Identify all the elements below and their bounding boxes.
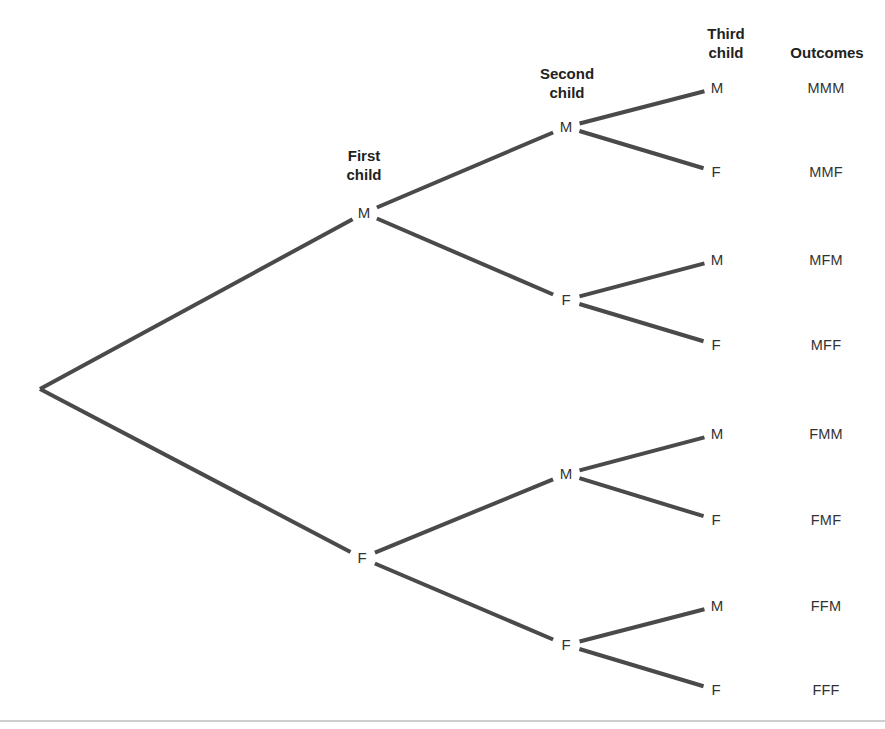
header-second-child: Second child bbox=[522, 64, 612, 102]
branch-level2-to-level3 bbox=[579, 304, 703, 341]
branch-level2-to-level3 bbox=[580, 437, 705, 470]
header-second-line2: child bbox=[522, 83, 612, 102]
branch-level1-to-level2 bbox=[375, 479, 553, 552]
branch-level1-to-level2 bbox=[377, 219, 553, 295]
outcome-label: MFM bbox=[809, 252, 843, 268]
branch-level2-to-level3 bbox=[579, 649, 703, 686]
header-first-line1: First bbox=[319, 146, 409, 165]
header-outcomes: Outcomes bbox=[777, 43, 877, 62]
node-first-child: M bbox=[356, 205, 373, 221]
branch-root-to-level1 bbox=[40, 389, 350, 552]
node-third-child: M bbox=[709, 426, 726, 442]
tree-diagram bbox=[0, 0, 885, 729]
branch-level2-to-level3 bbox=[580, 609, 705, 641]
node-second-child: M bbox=[558, 466, 575, 482]
branch-level2-to-level3 bbox=[580, 263, 705, 296]
node-second-child: F bbox=[559, 292, 572, 308]
outcome-label: FFM bbox=[811, 598, 841, 614]
node-third-child: F bbox=[709, 512, 722, 528]
branch-level1-to-level2 bbox=[375, 563, 553, 639]
branch-root-to-level1 bbox=[40, 219, 353, 389]
outcome-label: MMF bbox=[809, 164, 843, 180]
node-third-child: F bbox=[709, 337, 722, 353]
outcome-label: FFF bbox=[812, 682, 839, 698]
header-third-line2: child bbox=[681, 43, 771, 62]
header-second-line1: Second bbox=[522, 64, 612, 83]
node-third-child: M bbox=[709, 598, 726, 614]
header-first-child: First child bbox=[319, 146, 409, 184]
outcome-label: MFF bbox=[811, 337, 841, 353]
outcome-label: FMF bbox=[811, 512, 841, 528]
branch-level2-to-level3 bbox=[579, 478, 703, 516]
node-third-child: M bbox=[709, 80, 726, 96]
header-third-child: Third child bbox=[681, 24, 771, 62]
outcome-label: FMM bbox=[809, 426, 843, 442]
branch-level2-to-level3 bbox=[579, 131, 703, 168]
header-first-line2: child bbox=[319, 165, 409, 184]
outcome-label: MMM bbox=[808, 80, 845, 96]
header-outcomes-label: Outcomes bbox=[777, 43, 877, 62]
node-second-child: F bbox=[559, 637, 572, 653]
node-second-child: M bbox=[558, 119, 575, 135]
header-third-line1: Third bbox=[681, 24, 771, 43]
node-third-child: F bbox=[709, 682, 722, 698]
node-third-child: M bbox=[709, 252, 726, 268]
node-third-child: F bbox=[709, 164, 722, 180]
node-first-child: F bbox=[355, 550, 368, 566]
bottom-divider bbox=[0, 720, 885, 722]
